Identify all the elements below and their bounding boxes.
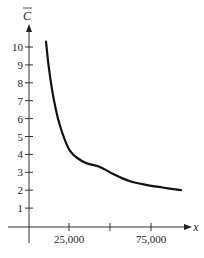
chart: 1234567891025,00075,000 C x (0, 0, 204, 258)
y-tick-label: 2 (18, 184, 24, 196)
y-axis-label: C (23, 9, 32, 23)
series-line (46, 42, 181, 191)
y-tick-label: 3 (18, 166, 24, 178)
axes (8, 8, 190, 243)
y-tick-label: 10 (12, 41, 24, 53)
ticks: 1234567891025,00075,000 (12, 41, 167, 245)
y-tick-label: 8 (18, 77, 24, 89)
x-tick-label: 25,000 (54, 233, 85, 245)
y-tick-label: 7 (18, 95, 24, 107)
series (46, 42, 181, 191)
y-tick-label: 9 (18, 59, 24, 71)
y-tick-label: 6 (18, 113, 24, 125)
x-tick-label: 75,000 (136, 233, 167, 245)
y-tick-label: 5 (18, 131, 24, 143)
y-tick-label: 4 (18, 148, 24, 160)
y-tick-label: 1 (18, 202, 24, 214)
x-axis-label: x (192, 220, 199, 234)
